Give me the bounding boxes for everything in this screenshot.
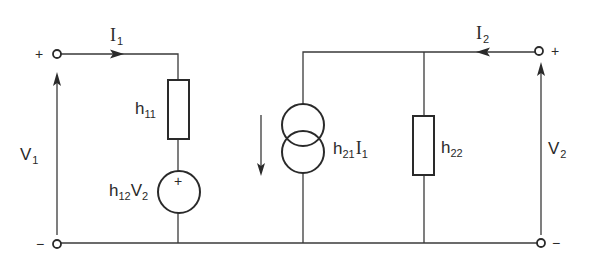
resistor-h11-label: h11 bbox=[135, 99, 156, 120]
terminal-port1-plus[interactable] bbox=[53, 50, 61, 58]
current-source-h21i1[interactable] bbox=[282, 104, 324, 173]
terminals bbox=[53, 47, 545, 248]
port1-minus-sign: − bbox=[36, 236, 44, 252]
resistor-h22-label: h22 bbox=[441, 138, 463, 159]
current-source-circle-bottom bbox=[282, 131, 324, 173]
circuit-diagram: + − + − I1 I2 V1 V2 h11 + h12V2 h21I1 bbox=[0, 0, 592, 260]
voltage-source-polarity-plus: + bbox=[174, 173, 182, 189]
current-i2-label: I2 bbox=[476, 23, 489, 45]
resistor-h22[interactable] bbox=[413, 116, 434, 175]
terminal-port1-minus[interactable] bbox=[53, 240, 61, 248]
port1-plus-sign: + bbox=[35, 46, 43, 62]
port2-minus-sign: − bbox=[552, 235, 560, 251]
current-source-circle-top bbox=[282, 104, 324, 146]
current-source-h21i1-label: h21I1 bbox=[333, 138, 368, 160]
current-i1-label: I1 bbox=[110, 25, 123, 47]
resistor-h11[interactable] bbox=[168, 80, 189, 139]
terminal-port2-minus[interactable] bbox=[537, 239, 545, 247]
wire-output-top bbox=[303, 52, 535, 104]
port2-plus-sign: + bbox=[551, 43, 559, 59]
voltage-v1-label: V1 bbox=[20, 145, 38, 166]
voltage-v2-label: V2 bbox=[548, 139, 566, 160]
wires bbox=[61, 52, 537, 243]
voltage-source-h12v2-label: h12V2 bbox=[109, 181, 148, 202]
wire-input-top bbox=[61, 54, 178, 80]
terminal-port2-plus[interactable] bbox=[535, 47, 543, 55]
